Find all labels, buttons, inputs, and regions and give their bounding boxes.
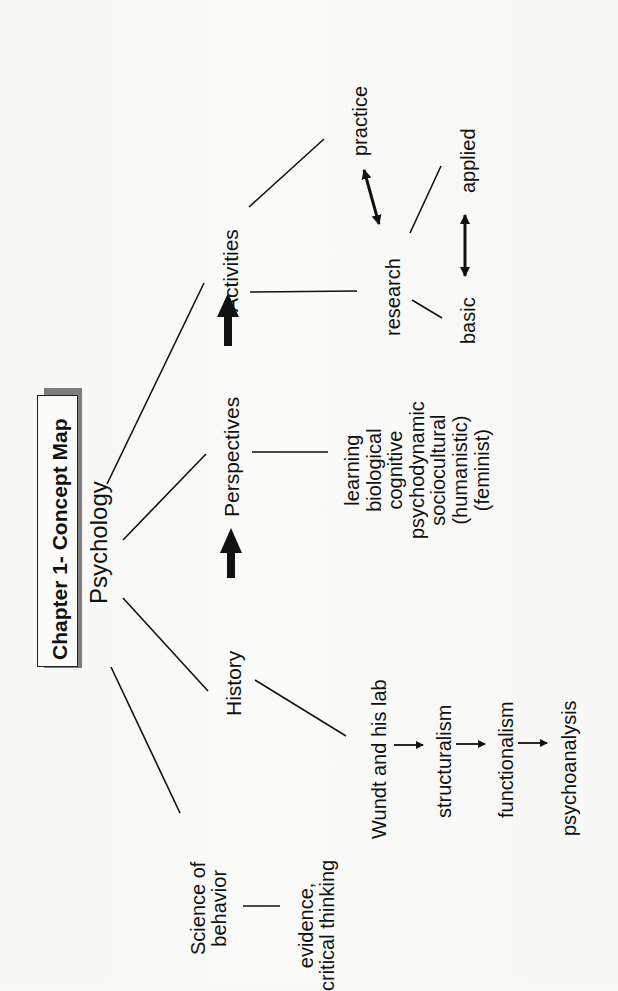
node-psychology: Psychology: [86, 481, 111, 604]
thick-arrow-history-to-perspectives: [220, 528, 242, 578]
edge-psychology-activities: [107, 283, 204, 484]
edge-research-basic: [412, 300, 442, 318]
edge-research-applied: [410, 166, 441, 233]
edge-activities-practice: [249, 139, 324, 207]
node-research: research: [383, 258, 404, 336]
node-applied: applied: [458, 128, 479, 193]
edge-psychology-perspectives: [123, 454, 206, 540]
edge-activities-research: [250, 291, 357, 292]
node-perspectives: Perspectives: [221, 397, 243, 517]
edge-psychology-history: [123, 598, 208, 691]
node-practice: practice: [350, 86, 371, 156]
perspective-list: learning biological cognitive psychodyna…: [342, 401, 493, 539]
double-arrow-practice-research: [364, 170, 379, 224]
page-title: Chapter 1- Concept Map: [48, 418, 72, 660]
node-structuralism: structuralism: [434, 705, 455, 818]
node-basic: basic: [458, 297, 479, 344]
node-science-of-behavior: Science of behavior: [188, 862, 230, 955]
node-psychoanalysis: psychoanalysis: [559, 700, 580, 836]
edge-history-wundt: [255, 680, 346, 736]
node-evidence-critical-thinking: evidence, critical thinking: [296, 860, 338, 991]
node-activities: Activities: [220, 229, 242, 312]
node-functionalism: functionalism: [496, 701, 517, 818]
node-wundt-and-his-lab: Wundt and his lab: [369, 679, 390, 839]
node-history: History: [223, 651, 245, 716]
edge-psychology-science: [111, 667, 180, 813]
